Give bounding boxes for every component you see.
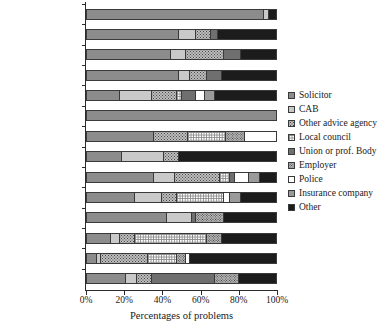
stacked-bar	[86, 151, 277, 162]
bar-segment-other	[240, 50, 276, 59]
bar-segment-solicitor	[87, 254, 96, 263]
bar-segment-cab	[119, 91, 151, 100]
legend-label: Local council	[299, 132, 351, 142]
bar-segment-solicitor	[87, 71, 178, 80]
bar-segment-local-council	[147, 254, 175, 263]
stacked-bar-chart: DivorceR'ship. breakdownHousing (own)Per…	[0, 0, 377, 333]
chart-row: Discrimination	[86, 273, 277, 284]
y-axis-tick	[82, 187, 86, 188]
bar-segment-other	[178, 152, 276, 161]
stacked-bar	[86, 110, 277, 121]
chart-row: Employment	[86, 212, 277, 223]
bar-segment-union-or-prof-body	[206, 71, 221, 80]
bar-segment-solicitor	[87, 30, 178, 39]
legend-swatch-icon	[288, 162, 295, 169]
bar-segment-other-advice-agency	[163, 152, 178, 161]
bar-segment-solicitor	[87, 111, 276, 120]
legend-swatch-icon	[288, 134, 295, 141]
stacked-bar	[86, 90, 277, 101]
x-axis-tick-label: 0%	[80, 295, 93, 306]
bar-segment-other-advice-agency	[136, 274, 151, 283]
legend: SolicitorCABOther advice agencyLocal cou…	[288, 88, 376, 214]
bar-segment-union-or-prof-body	[151, 274, 213, 283]
bar-segment-other	[189, 254, 276, 263]
bar-segment-local-council	[219, 173, 228, 182]
bar-segment-other	[221, 234, 276, 243]
bar-segment-other-advice-agency	[161, 193, 176, 202]
bar-segment-cab	[121, 152, 163, 161]
x-axis-tick-label: 100%	[266, 295, 288, 306]
legend-swatch-icon	[288, 176, 295, 183]
bar-segment-police	[244, 132, 276, 141]
legend-swatch-icon	[288, 106, 295, 113]
bar-segment-insurance-company	[204, 91, 213, 100]
bar-segment-cab	[178, 30, 195, 39]
bar-segment-solicitor	[87, 213, 166, 222]
bar-segment-other	[259, 173, 276, 182]
stacked-bar	[86, 49, 277, 60]
bar-segment-insurance-company	[248, 173, 259, 182]
x-axis-tick-label: 40%	[154, 295, 171, 306]
stacked-bar	[86, 29, 277, 40]
bar-segment-local-council	[134, 234, 206, 243]
x-axis-tick-label: 80%	[230, 295, 247, 306]
bar-segment-solicitor	[87, 50, 170, 59]
y-axis-tick	[82, 269, 86, 270]
bar-segment-other-advice-agency	[100, 254, 147, 263]
legend-item: Other	[288, 200, 376, 214]
chart-row: R'ship. breakdown	[86, 29, 277, 40]
bar-segment-other-advice-agency	[153, 132, 187, 141]
bar-segment-other-advice-agency	[151, 91, 176, 100]
bar-segment-local-council	[176, 193, 223, 202]
chart-row: Personal injury	[86, 70, 277, 81]
legend-item: Insurance company	[288, 186, 376, 200]
legend-item: Police	[288, 172, 376, 186]
y-axis-tick	[82, 85, 86, 86]
legend-label: CAB	[299, 104, 319, 114]
bar-segment-insurance-company	[229, 193, 240, 202]
bar-segment-other-advice-agency	[189, 71, 206, 80]
legend-label: Police	[299, 174, 323, 184]
bar-segment-solicitor	[87, 152, 121, 161]
legend-item: Employer	[288, 158, 376, 172]
stacked-bar	[86, 131, 277, 142]
bar-segment-union-or-prof-body	[223, 50, 240, 59]
bar-segment-employer	[206, 234, 221, 243]
bar-segment-cab	[110, 234, 119, 243]
bar-segment-solicitor	[87, 91, 119, 100]
bar-segment-other-advice-agency	[185, 50, 223, 59]
chart-row: Consumer	[86, 172, 277, 183]
bar-segment-cab	[153, 173, 174, 182]
x-axis-line	[85, 290, 278, 291]
chart-row: Children	[86, 253, 277, 264]
y-axis-tick	[82, 208, 86, 209]
y-axis-tick	[82, 65, 86, 66]
bar-segment-union-or-prof-body	[181, 91, 194, 100]
y-axis-tick	[82, 167, 86, 168]
legend-swatch-icon	[288, 204, 295, 211]
bar-segment-police	[195, 91, 204, 100]
bar-segment-cab	[166, 213, 191, 222]
legend-label: Solicitor	[299, 90, 332, 100]
bar-segment-solicitor	[87, 10, 263, 19]
bar-segment-employer	[195, 213, 223, 222]
chart-row: Clinical negligence	[86, 151, 277, 162]
bar-segment-cab	[170, 50, 185, 59]
bar-segment-employer	[176, 254, 185, 263]
bar-segment-solicitor	[87, 132, 153, 141]
chart-row: Housing (own)	[86, 49, 277, 60]
bar-segment-other	[217, 30, 276, 39]
legend-item: Local council	[288, 130, 376, 144]
chart-row: Housing (rent)	[86, 192, 277, 203]
y-axis-tick	[82, 228, 86, 229]
chart-row: Homelessness	[86, 110, 277, 121]
bar-segment-cab	[178, 71, 189, 80]
x-axis-tick-label: 20%	[115, 295, 132, 306]
bar-segment-other	[238, 274, 276, 283]
bar-segment-police	[234, 173, 247, 182]
legend-label: Union or prof. Body	[299, 146, 377, 156]
bar-segment-solicitor	[87, 173, 153, 182]
stacked-bar	[86, 233, 277, 244]
legend-item: Union or prof. Body	[288, 144, 376, 158]
y-axis-tick	[82, 106, 86, 107]
